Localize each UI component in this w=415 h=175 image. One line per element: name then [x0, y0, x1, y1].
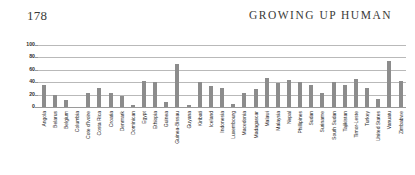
x-axis-category-label: Cote d'Ivoire — [86, 111, 91, 139]
x-label-slot: Tajikistan — [339, 110, 350, 174]
bar — [131, 105, 135, 107]
bar — [187, 105, 191, 107]
bar — [376, 99, 380, 107]
x-label-slot: Ethiopia — [150, 110, 161, 174]
x-axis-category-label: Dominican — [130, 111, 135, 135]
x-label-slot: Croatia — [105, 110, 116, 174]
x-label-slot: Angola — [38, 110, 49, 174]
bar — [387, 61, 391, 108]
bar-slot — [283, 45, 294, 107]
x-label-slot: Cote d'Ivoire — [83, 110, 94, 174]
bar-slot — [105, 45, 116, 107]
bar — [209, 86, 213, 107]
bar — [254, 89, 258, 107]
bar — [354, 79, 358, 107]
x-label-slot: Guyana — [183, 110, 194, 174]
bar — [276, 83, 280, 107]
bar — [64, 100, 68, 107]
bar-slot — [362, 45, 373, 107]
bar — [142, 81, 146, 107]
x-label-slot: Belarus — [49, 110, 60, 174]
x-label-slot: Suriname — [317, 110, 328, 174]
x-axis-category-label: Iceland — [208, 111, 213, 127]
x-axis-category-label: Egypt — [141, 111, 146, 124]
y-axis-tick-mark — [35, 107, 38, 108]
x-axis-category-label: Suriname — [320, 111, 325, 132]
x-label-slot: Timor-Leste — [350, 110, 361, 174]
bar — [86, 93, 90, 107]
bar-slot — [272, 45, 283, 107]
bar-slot — [116, 45, 127, 107]
x-label-slot: Turkey — [362, 110, 373, 174]
x-label-slot: Phillipines — [295, 110, 306, 174]
bar-slot — [350, 45, 361, 107]
x-label-slot: South Sudan — [328, 110, 339, 174]
bar — [53, 95, 57, 107]
x-label-slot: Luxembourg — [228, 110, 239, 174]
page-header: 178 GROWING UP HUMAN — [0, 0, 415, 30]
x-label-slot: Malaysia — [272, 110, 283, 174]
bar — [298, 82, 302, 107]
page-number: 178 — [27, 8, 47, 24]
x-label-slot: Costa Rica — [94, 110, 105, 174]
bar — [153, 82, 157, 107]
x-axis-category-label: Belgium — [63, 111, 68, 129]
x-label-slot: Zimbabwe — [395, 110, 406, 174]
bar-slot — [295, 45, 306, 107]
running-head-title: GROWING UP HUMAN — [249, 9, 392, 21]
bar-slot — [239, 45, 250, 107]
bar-chart: 100806040200 AngolaBelarusBelgiumColumbi… — [0, 38, 415, 175]
bar — [231, 104, 235, 107]
y-axis-tick-label: 100 — [26, 42, 35, 47]
x-axis-category-label: Zimbabwe — [398, 111, 403, 134]
x-label-slot: Macedonia — [239, 110, 250, 174]
x-axis-category-label: Timor-Leste — [353, 111, 358, 138]
bar-slot — [261, 45, 272, 107]
bar — [97, 88, 101, 107]
bar-slot — [217, 45, 228, 107]
bar-slot — [127, 45, 138, 107]
bar — [242, 93, 246, 107]
bar-series — [38, 45, 406, 107]
x-label-slot: Madagascar — [250, 110, 261, 174]
x-axis-category-label: United States — [376, 111, 381, 141]
x-label-slot: Iceland — [205, 110, 216, 174]
x-label-slot: Vanuatu — [384, 110, 395, 174]
bar-slot — [150, 45, 161, 107]
x-axis-category-label: Guinea-Bissau — [175, 111, 180, 144]
x-axis-category-label: Indonesia — [220, 111, 225, 133]
x-label-slot: Belgium — [60, 110, 71, 174]
x-label-slot: Nepal — [283, 110, 294, 174]
bar-slot — [183, 45, 194, 107]
x-label-slot: Dominican — [127, 110, 138, 174]
x-label-slot: Kiribati — [194, 110, 205, 174]
x-label-slot: Guinea-Bissau — [172, 110, 183, 174]
bar — [343, 85, 347, 107]
x-label-slot: Guinea — [161, 110, 172, 174]
bar-slot — [317, 45, 328, 107]
x-label-slot: Egypt — [138, 110, 149, 174]
bar-slot — [83, 45, 94, 107]
x-axis-category-label: Guinea — [164, 111, 169, 127]
bar-slot — [49, 45, 60, 107]
x-axis-category-label: Macedonia — [242, 111, 247, 135]
x-axis-category-label: Madagascar — [253, 111, 258, 139]
bar-slot — [384, 45, 395, 107]
x-axis-category-label: Tajikistan — [342, 111, 347, 132]
x-label-slot: Denmark — [116, 110, 127, 174]
bar-slot — [373, 45, 384, 107]
bar — [365, 88, 369, 107]
bar-slot — [172, 45, 183, 107]
bar-slot — [228, 45, 239, 107]
x-axis-category-label: Sudan — [309, 111, 314, 125]
x-axis-category-label: Denmark — [119, 111, 124, 131]
bar — [198, 82, 202, 107]
x-axis-category-label: Phillipines — [298, 111, 303, 134]
x-axis-category-label: Ethiopia — [153, 111, 158, 129]
x-axis-category-label: Malaysia — [275, 111, 280, 131]
bar-slot — [194, 45, 205, 107]
bar-slot — [94, 45, 105, 107]
plot-area: 100806040200 — [38, 45, 406, 107]
x-axis-category-label: Vanuatu — [387, 111, 392, 129]
bar — [332, 82, 336, 107]
